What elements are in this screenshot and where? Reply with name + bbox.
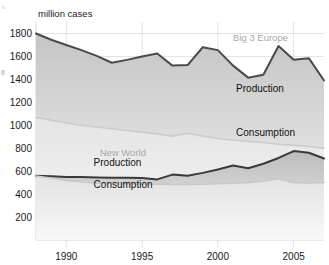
x-tick-label: 2000 — [207, 251, 230, 262]
annotation-newworld-consumption: Consumption — [94, 179, 153, 190]
chart-container: 18001600140012001000800600400200 1990199… — [0, 0, 329, 265]
y-tick-label: 1600 — [10, 51, 33, 62]
line-area-chart: 18001600140012001000800600400200 1990199… — [0, 0, 329, 265]
y-tick-label: 400 — [15, 189, 32, 200]
annotation-big3-consumption: Consumption — [236, 127, 295, 138]
series-area — [36, 176, 324, 240]
y-axis-caption: million cases — [38, 8, 93, 19]
y-tick-label: 600 — [15, 166, 32, 177]
y-tick-label: 1200 — [10, 97, 33, 108]
y-tick-label: 1000 — [10, 120, 33, 131]
y-tick-label: 1400 — [10, 74, 33, 85]
x-axis-tick-labels: 1990199520002005 — [55, 251, 305, 262]
annotation-newworld-production: Production — [94, 157, 142, 168]
annotation-big3-production: Production — [236, 83, 284, 94]
x-tick-label: 1990 — [55, 251, 78, 262]
annotation-big3-europe: Big 3 Europe — [233, 32, 288, 43]
y-tick-label: 200 — [15, 212, 32, 223]
y-tick-label: 1800 — [10, 28, 33, 39]
y-tick-label: 800 — [15, 143, 32, 154]
x-tick-label: 2005 — [283, 251, 306, 262]
x-tick-label: 1995 — [131, 251, 154, 262]
y-axis-tick-labels: 18001600140012001000800600400200 — [10, 28, 33, 223]
